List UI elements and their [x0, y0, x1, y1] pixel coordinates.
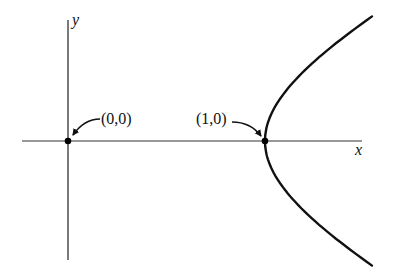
hyperbola-diagram: y x (0,0) (1,0): [0, 0, 403, 276]
origin-point: [65, 138, 72, 145]
origin-label: (0,0): [101, 110, 132, 128]
vertex-pointer-arrow: [232, 122, 261, 136]
vertex-point: [262, 138, 269, 145]
vertex-label: (1,0): [196, 110, 227, 128]
origin-pointer-arrow: [73, 119, 100, 135]
y-axis-label: y: [70, 11, 80, 29]
x-axis-label: x: [354, 141, 362, 158]
